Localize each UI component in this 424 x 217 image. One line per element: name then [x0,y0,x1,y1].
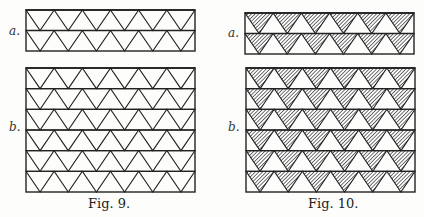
triangle [331,109,359,130]
triangle [274,109,302,130]
triangle [139,68,167,89]
triangle [139,130,167,151]
triangle [82,10,110,31]
triangle [167,68,195,89]
triangle [273,34,301,55]
triangle [331,89,359,110]
triangle [331,151,359,172]
triangle [387,89,415,110]
triangle [82,171,110,192]
triangle [330,34,358,55]
triangle [167,89,195,110]
triangle [245,13,273,34]
triangle [302,89,330,110]
triangle [111,68,139,89]
fig9-b-label: b. [9,120,21,134]
triangle [246,109,274,130]
fig9-a-label: a. [9,24,20,38]
triangle [274,130,302,151]
triangle [358,34,386,55]
triangle [302,171,330,192]
figure-artwork [0,0,424,217]
triangle [331,130,359,151]
triangle [302,130,330,151]
triangle [274,151,302,172]
triangle [26,151,54,172]
triangle [387,171,415,192]
triangle [359,151,387,172]
triangle [54,89,82,110]
triangle [387,68,415,89]
triangle [246,89,274,110]
triangle [274,89,302,110]
triangle [359,109,387,130]
triangle [386,13,414,34]
cut-off-text-line [0,212,424,217]
triangle [139,151,167,172]
triangle [54,130,82,151]
fig10-caption: Fig. 10. [308,196,358,211]
triangle [246,68,274,89]
triangle [111,130,139,151]
triangle [359,130,387,151]
triangle [26,109,54,130]
fig9-caption: Fig. 9. [88,196,130,211]
triangle [302,109,330,130]
triangle [82,68,110,89]
fig10-a-label: a. [228,26,239,40]
triangle [82,31,110,52]
triangle [111,109,139,130]
triangle [331,171,359,192]
triangle [246,171,274,192]
triangle [301,13,329,34]
triangle [387,151,415,172]
triangle [82,151,110,172]
triangle [111,31,139,52]
triangle [26,89,54,110]
triangle [26,130,54,151]
triangle [54,31,82,52]
fig10-b-label: b. [228,120,240,134]
triangle [54,10,82,31]
triangle [274,68,302,89]
triangle [26,171,54,192]
triangle [331,68,359,89]
triangle [139,89,167,110]
triangle [54,68,82,89]
triangle [358,13,386,34]
triangle [386,34,414,55]
triangle [111,151,139,172]
triangle [139,171,167,192]
triangle [246,151,274,172]
triangle [139,31,167,52]
triangle [111,171,139,192]
triangle [139,109,167,130]
triangle [302,68,330,89]
triangle [167,10,195,31]
triangle [387,109,415,130]
triangle [82,130,110,151]
triangle [330,13,358,34]
triangle [26,31,54,52]
triangle [82,89,110,110]
triangle [359,68,387,89]
triangle [167,151,195,172]
triangle [54,151,82,172]
triangle [111,89,139,110]
triangle [26,10,54,31]
triangle [274,171,302,192]
triangle [167,130,195,151]
triangle [82,109,110,130]
triangle [54,171,82,192]
triangle [139,10,167,31]
triangle [359,89,387,110]
triangle [273,13,301,34]
triangle [167,109,195,130]
triangle [245,34,273,55]
triangle [387,130,415,151]
triangle [246,130,274,151]
triangle [301,34,329,55]
triangle [111,10,139,31]
triangle [54,109,82,130]
triangle [26,68,54,89]
